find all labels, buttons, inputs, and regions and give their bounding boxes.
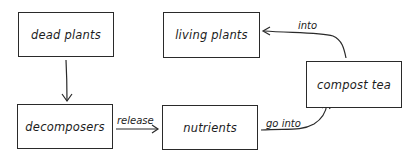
node-nutrients: nutrients: [162, 105, 258, 150]
node-decomposers: decomposers: [17, 104, 113, 149]
edge-compost-tea-to-living-plants: [264, 31, 346, 58]
node-label: decomposers: [25, 120, 104, 134]
edge-label-release: release: [117, 115, 154, 126]
node-dead-plants: dead plants: [18, 12, 114, 57]
node-label: living plants: [175, 28, 248, 42]
edge-label-into: into: [298, 20, 317, 31]
edge-dead-plants-to-decomposers: [66, 60, 67, 101]
node-label: nutrients: [183, 121, 237, 135]
node-label: dead plants: [31, 28, 101, 42]
node-label: compost tea: [317, 78, 391, 92]
edge-label-go-into: go into: [266, 118, 301, 129]
node-living-plants: living plants: [163, 12, 260, 58]
node-compost-tea: compost tea: [306, 61, 402, 108]
